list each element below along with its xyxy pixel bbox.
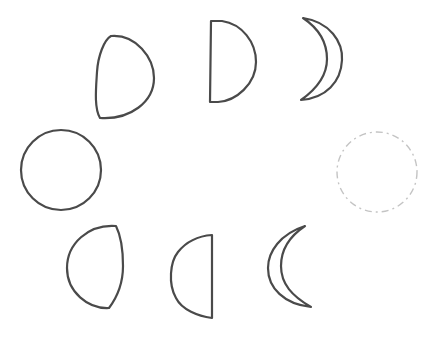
waxing-crescent-shape: Waxing crescent (301, 18, 342, 100)
new-moon-shape: New moon (337, 132, 417, 212)
waning-crescent-shape: Waning crescent (268, 226, 311, 307)
moon-phases-diagram: Waxing gibbous First quarter Waxing cres… (0, 0, 441, 341)
third-quarter-shape: Third quarter (171, 235, 212, 318)
waxing-gibbous-shape: Waxing gibbous (96, 36, 154, 118)
first-quarter-shape: First quarter (210, 21, 256, 102)
waning-gibbous-shape: Waning gibbous (67, 226, 123, 308)
full-moon-shape: Full moon (21, 130, 101, 210)
